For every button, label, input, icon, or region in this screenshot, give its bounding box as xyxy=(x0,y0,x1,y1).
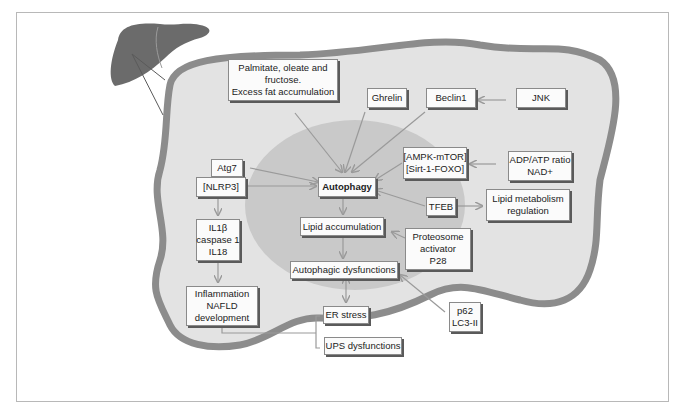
node-palmitate: Palmitate, oleate and fructose. Excess f… xyxy=(228,59,338,101)
node-ampk-sirt1: [AMPK-mTOR] [Sirt-1-FOXO] xyxy=(403,147,467,179)
node-autophagy: Autophagy xyxy=(318,177,376,197)
node-p62-lc3: p62 LC3-II xyxy=(449,302,481,332)
node-lipid-metabolism: Lipid metabolism regulation xyxy=(486,189,570,221)
node-beclin1: Beclin1 xyxy=(426,88,476,108)
node-er-stress: ER stress xyxy=(323,306,369,324)
node-ups-dysfunctions: UPS dysfunctions xyxy=(324,337,402,355)
node-il1b-caspase1-il18: IL1β caspase 1 IL18 xyxy=(196,219,240,261)
node-adp-atp: ADP/ATP ratio NAD+ xyxy=(508,151,572,181)
node-lipid-accumulation: Lipid accumulation xyxy=(300,217,384,236)
node-tfeb: TFEB xyxy=(426,197,456,216)
node-proteosome-activator: Proteosome activator P28 xyxy=(405,228,471,270)
node-autophagic-dysfunctions: Autophagic dysfunctions xyxy=(290,261,398,279)
node-inflammation-nafld: Inflammation NAFLD development xyxy=(186,286,258,326)
node-nlrp3: [NLRP3] xyxy=(196,177,246,197)
node-ghrelin: Ghrelin xyxy=(367,88,407,108)
node-atg7: Atg7 xyxy=(211,159,243,177)
node-jnk: JNK xyxy=(516,88,566,108)
